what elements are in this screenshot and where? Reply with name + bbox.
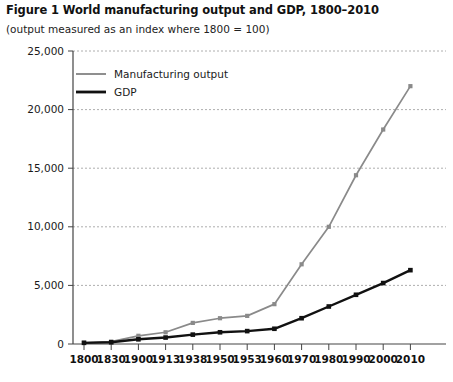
data-point-marker xyxy=(218,316,222,320)
data-point-marker xyxy=(354,173,358,177)
chart-axes: 1800183019001913193819501953196019701980… xyxy=(69,51,446,365)
data-point-marker xyxy=(300,262,304,266)
chart-legend: Manufacturing outputGDP xyxy=(76,68,228,98)
data-point-marker xyxy=(354,292,359,297)
series-gdp xyxy=(82,268,413,345)
data-point-marker xyxy=(327,225,331,229)
x-axis-tick-label: 1970 xyxy=(287,353,316,365)
x-axis-tick-label: 1900 xyxy=(124,353,153,365)
data-point-marker xyxy=(299,316,304,321)
data-point-marker xyxy=(381,281,386,286)
data-point-marker xyxy=(82,341,87,346)
series-manufacturing-output xyxy=(82,84,413,345)
x-axis-tick-label: 1950 xyxy=(205,353,234,365)
line-chart: 05,00010,00015,00020,00025,0001800183019… xyxy=(0,0,453,382)
data-point-marker xyxy=(245,314,249,318)
data-point-marker xyxy=(381,127,385,131)
data-point-marker xyxy=(408,268,413,273)
data-point-marker xyxy=(272,326,277,331)
legend-label: GDP xyxy=(114,86,137,98)
y-axis-tick-label: 10,000 xyxy=(27,220,64,232)
data-point-marker xyxy=(164,330,168,334)
x-axis-tick-label: 1960 xyxy=(260,353,289,365)
x-axis-tick-label: 1800 xyxy=(69,353,98,365)
x-axis-tick-label: 1830 xyxy=(97,353,126,365)
figure-container: Figure 1 World manufacturing output and … xyxy=(0,0,453,382)
data-point-marker xyxy=(136,337,141,342)
x-axis-tick-label: 2000 xyxy=(369,353,398,365)
data-point-marker xyxy=(218,330,223,335)
chart-series xyxy=(82,84,413,345)
y-axis-tick-label: 25,000 xyxy=(27,45,64,57)
x-axis-tick-label: 1953 xyxy=(233,353,262,365)
data-point-marker xyxy=(245,329,250,334)
x-axis-tick-label: 1913 xyxy=(151,353,180,365)
x-axis-tick-label: 2010 xyxy=(396,353,425,365)
data-point-marker xyxy=(191,321,195,325)
data-point-marker xyxy=(163,335,168,340)
y-axis-tick-label: 0 xyxy=(57,338,64,350)
y-axis-tick-label: 15,000 xyxy=(27,162,64,174)
data-point-marker xyxy=(191,332,196,337)
data-point-marker xyxy=(272,302,276,306)
y-axis-tick-label: 5,000 xyxy=(34,279,64,291)
x-axis-tick-label: 1980 xyxy=(314,353,343,365)
legend-label: Manufacturing output xyxy=(114,68,228,80)
data-point-marker xyxy=(408,84,412,88)
x-axis-tick-label: 1990 xyxy=(341,353,370,365)
data-point-marker xyxy=(327,304,332,309)
x-axis-tick-label: 1938 xyxy=(178,353,207,365)
data-point-marker xyxy=(109,340,114,345)
y-gridlines: 05,00010,00015,00020,00025,000 xyxy=(27,45,446,350)
y-axis-tick-label: 20,000 xyxy=(27,103,64,115)
series-line xyxy=(84,86,410,343)
